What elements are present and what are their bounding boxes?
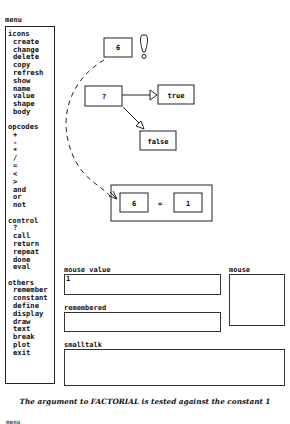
remembered-label: remembered bbox=[64, 304, 106, 312]
mouse-label: mouse bbox=[229, 266, 250, 274]
program-diagram: 6 ? true false 6 = 1 bbox=[0, 0, 290, 260]
figure-caption: The argument to FACTORIAL is tested agai… bbox=[0, 397, 290, 406]
smalltalk-field[interactable] bbox=[64, 349, 285, 386]
remembered-field[interactable] bbox=[64, 312, 221, 332]
arrow-head-icon bbox=[136, 121, 144, 129]
top-value-node[interactable]: 6 bbox=[104, 38, 132, 57]
svg-text:false: false bbox=[147, 138, 168, 146]
svg-text:6: 6 bbox=[116, 44, 120, 52]
svg-text:true: true bbox=[168, 92, 185, 100]
compare-node[interactable]: 6 = 1 bbox=[111, 185, 212, 221]
smalltalk-label: smalltalk bbox=[64, 341, 102, 349]
svg-text:?: ? bbox=[102, 93, 106, 101]
mouse-pad[interactable] bbox=[229, 274, 285, 326]
svg-text:=: = bbox=[158, 200, 162, 208]
mouse-value-field[interactable]: 1 bbox=[64, 274, 221, 295]
test-node[interactable]: ? bbox=[85, 86, 122, 106]
menu-item[interactable]: eval bbox=[8, 263, 48, 271]
mouse-value-text: 1 bbox=[66, 275, 70, 283]
true-node[interactable]: true bbox=[158, 85, 194, 104]
mouse-value-label: mouse value bbox=[64, 266, 110, 274]
svg-text:1: 1 bbox=[186, 200, 190, 208]
false-node[interactable]: false bbox=[140, 131, 176, 150]
dashed-connector bbox=[66, 60, 110, 196]
svg-text:6: 6 bbox=[132, 200, 136, 208]
menu-group-others: othersrememberconstantdefinedisplaydrawt… bbox=[8, 279, 48, 357]
exclamation-icon bbox=[140, 35, 147, 59]
menu-item[interactable]: exit bbox=[8, 349, 48, 357]
arrow-head-icon bbox=[150, 90, 157, 100]
next-menu-title: menu bbox=[6, 418, 20, 424]
